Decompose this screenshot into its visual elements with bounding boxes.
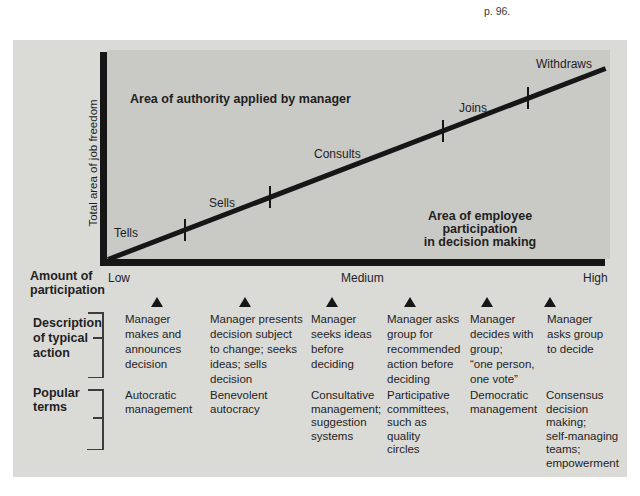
arrow-up-icon bbox=[151, 297, 163, 307]
line-label-tells: Tells bbox=[114, 226, 138, 240]
popular-terms-bracket bbox=[102, 389, 104, 450]
popular-terms-column: Consultative management; suggestion syst… bbox=[311, 389, 389, 443]
tick-mark bbox=[269, 186, 271, 208]
arrow-up-icon bbox=[326, 297, 338, 307]
arrow-up-icon bbox=[481, 297, 493, 307]
tick-mark bbox=[184, 219, 186, 241]
arrow-up-icon bbox=[239, 297, 251, 307]
popular-terms-column: Benevolent autocracy bbox=[210, 389, 309, 416]
line-label-consults: Consults bbox=[314, 147, 361, 161]
description-bracket bbox=[93, 337, 102, 339]
line-label-joins: Joins bbox=[459, 101, 487, 115]
popular-terms-bracket bbox=[87, 449, 102, 451]
description-column: Manager makes and announces decision bbox=[125, 312, 205, 372]
line-label-sells: Sells bbox=[209, 196, 235, 210]
tick-mark bbox=[527, 87, 529, 109]
popular-terms-column: Democratic management bbox=[470, 389, 550, 416]
description-column: Manager seeks ideas before deciding bbox=[311, 312, 386, 372]
x-axis-label-low: Low bbox=[108, 271, 130, 285]
participation-area-label: Area of employee participation in decisi… bbox=[393, 210, 567, 249]
description-bracket bbox=[88, 312, 102, 314]
figure-page: p. 96. Total area of job freedom Area of… bbox=[0, 0, 640, 496]
authority-area-label: Area of authority applied by manager bbox=[130, 92, 351, 106]
arrow-up-icon bbox=[404, 297, 416, 307]
description-bracket bbox=[102, 312, 104, 378]
page-citation: p. 96. bbox=[484, 5, 510, 17]
popular-terms-bracket bbox=[93, 417, 102, 419]
arrow-up-icon bbox=[544, 297, 556, 307]
popular-terms-label: Popular terms bbox=[33, 386, 80, 414]
tick-mark bbox=[442, 120, 444, 142]
popular-terms-column: Autocratic management bbox=[125, 389, 205, 416]
y-axis bbox=[100, 52, 107, 265]
description-column: Manager asks group to decide bbox=[547, 312, 617, 357]
description-column: Manager asks group for recommended actio… bbox=[387, 312, 469, 387]
y-axis-label: Total area of job freedom bbox=[87, 99, 99, 226]
description-column: Manager presents decision subject to cha… bbox=[210, 312, 309, 387]
x-axis-label-high: High bbox=[583, 271, 608, 285]
popular-terms-bracket bbox=[88, 389, 102, 391]
amount-of-participation-label: Amount of participation bbox=[30, 270, 105, 297]
x-axis-label-medium: Medium bbox=[341, 271, 384, 285]
line-label-withdraws: Withdraws bbox=[536, 57, 592, 71]
description-bracket bbox=[88, 377, 102, 379]
description-label: Description of typical action bbox=[33, 316, 102, 361]
x-axis bbox=[100, 259, 605, 266]
description-column: Manager decides with group; “one person,… bbox=[470, 312, 546, 387]
popular-terms-column: Consensus decision making; self-managing… bbox=[546, 389, 624, 470]
popular-terms-column: Participative committees, such as qualit… bbox=[387, 389, 469, 457]
